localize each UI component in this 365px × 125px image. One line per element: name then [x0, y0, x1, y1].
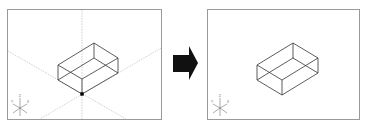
panel-before: Z Y X: [8, 10, 162, 120]
transform-arrow-icon: [173, 46, 198, 80]
svg-text:X: X: [27, 100, 29, 104]
diagram-canvas: Z Y X Z Y X: [0, 0, 365, 125]
svg-text:X: X: [227, 100, 229, 104]
svg-text:Z: Z: [219, 94, 221, 98]
base-point[interactable]: [80, 92, 83, 95]
viewport-frame-after: [208, 10, 360, 120]
viewport-frame-before: [8, 10, 162, 120]
svg-text:Y: Y: [11, 100, 13, 104]
svg-text:Z: Z: [19, 94, 21, 98]
panel-after: Z Y X: [208, 10, 360, 120]
svg-text:Y: Y: [211, 100, 213, 104]
